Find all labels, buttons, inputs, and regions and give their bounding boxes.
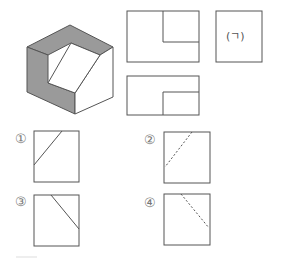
option-3-label[interactable]: ③ [15,195,27,208]
side-view-label: (ㄱ) [226,31,245,42]
top-view [127,76,199,115]
option-1-label[interactable]: ① [15,132,27,145]
option-3-figure[interactable] [34,195,79,246]
front-view [127,11,199,62]
option-2-figure[interactable] [164,132,210,183]
option-2-label[interactable]: ② [144,133,156,146]
option-4-label[interactable]: ④ [144,196,156,209]
option-4-figure[interactable] [164,194,210,245]
isometric-object [27,25,113,114]
option-1-figure[interactable] [34,131,79,182]
